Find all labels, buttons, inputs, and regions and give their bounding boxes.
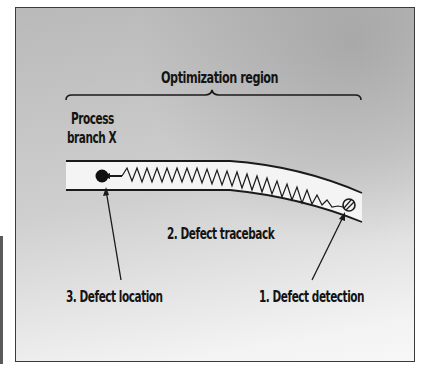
defect-traceback-label: 2. Defect traceback	[167, 226, 274, 242]
process-branch-label-line2: branch X	[67, 130, 116, 146]
optimization-region-label: Optimization region	[161, 70, 278, 86]
defect-detection-marker	[343, 199, 355, 211]
location-pointer-line	[106, 190, 121, 280]
defect-detection-label: 1. Defect detection	[259, 289, 364, 305]
detection-pointer-line	[312, 215, 344, 280]
process-branch-label-line1: Process	[71, 111, 114, 127]
optimization-region-brace	[66, 90, 361, 100]
defect-location-dot	[96, 170, 109, 183]
diagram-graphics	[0, 0, 425, 372]
defect-location-label: 3. Defect location	[66, 289, 163, 305]
